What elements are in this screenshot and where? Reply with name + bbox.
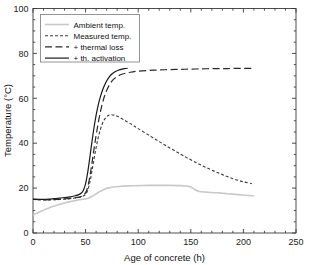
y-tick-label: 40 bbox=[18, 138, 28, 148]
chart-legend: Ambient temp.Measured temp.+ thermal los… bbox=[41, 15, 140, 64]
series-line-2 bbox=[33, 68, 252, 199]
x-tick-label: 100 bbox=[131, 237, 146, 247]
x-tick-label: 150 bbox=[183, 237, 198, 247]
x-tick-label: 0 bbox=[30, 237, 35, 247]
chart-figure: 050100150200250 020406080100 Age of conc… bbox=[0, 0, 311, 265]
series-line-0 bbox=[33, 185, 254, 215]
line-chart: 050100150200250 020406080100 Age of conc… bbox=[0, 0, 311, 265]
legend-label-0: Ambient temp. bbox=[74, 21, 126, 30]
y-tick-label: 20 bbox=[18, 183, 28, 193]
legend-label-2: + thermal loss bbox=[74, 43, 124, 52]
legend-label-3: + th. activation bbox=[74, 54, 126, 63]
y-axis-title: Temperature (°C) bbox=[2, 84, 13, 157]
y-tick-label: 0 bbox=[23, 228, 28, 238]
x-tick-label: 200 bbox=[236, 237, 251, 247]
data-series-group bbox=[33, 68, 254, 215]
y-tick-label: 60 bbox=[18, 94, 28, 104]
x-axis-title: Age of concrete (h) bbox=[124, 252, 205, 263]
series-line-1 bbox=[33, 115, 252, 200]
x-axis-tick-labels: 050100150200250 bbox=[30, 237, 303, 247]
y-axis-tick-labels: 020406080100 bbox=[13, 4, 28, 239]
x-tick-label: 250 bbox=[288, 237, 303, 247]
y-tick-label: 80 bbox=[18, 49, 28, 59]
series-line-3 bbox=[33, 68, 128, 199]
x-tick-label: 50 bbox=[81, 237, 91, 247]
legend-label-1: Measured temp. bbox=[74, 32, 132, 41]
y-tick-label: 100 bbox=[13, 4, 28, 14]
